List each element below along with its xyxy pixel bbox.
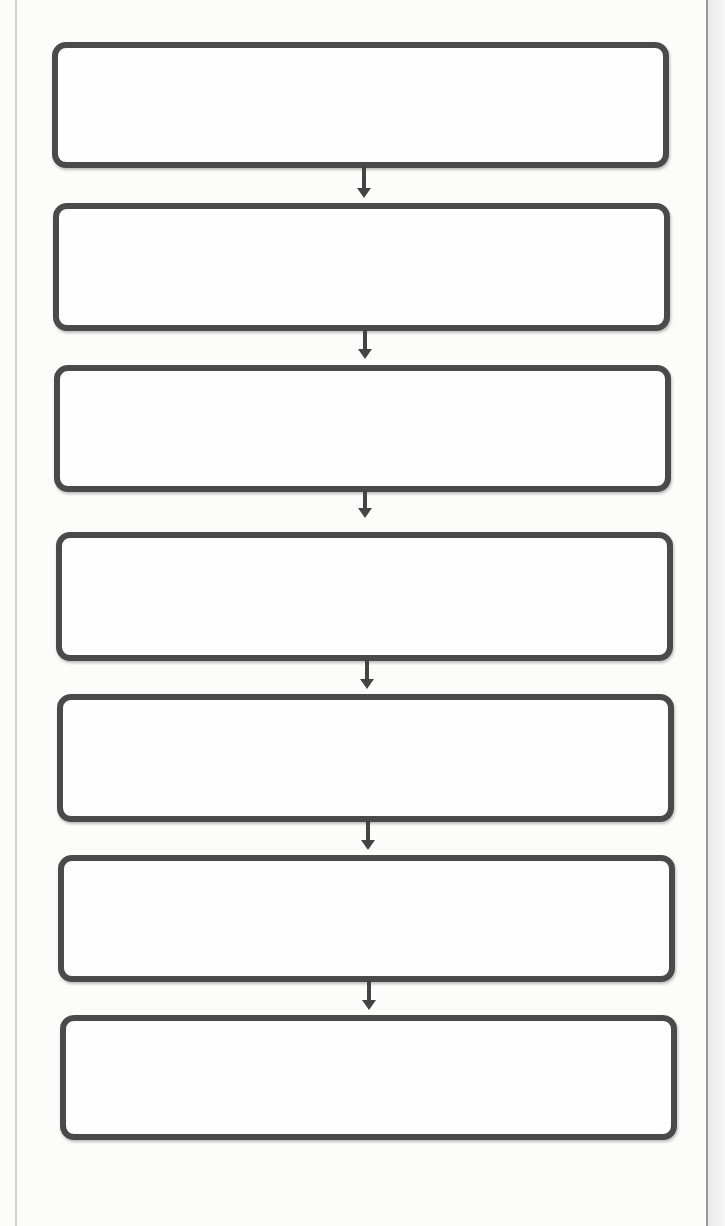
down-arrow-icon	[357, 166, 371, 200]
flow-box-7[interactable]	[60, 1015, 677, 1140]
down-arrow-icon	[360, 659, 374, 693]
flow-box-5[interactable]	[57, 694, 674, 822]
flow-box-1[interactable]	[52, 42, 669, 168]
down-arrow-icon	[362, 980, 376, 1014]
down-arrow-icon	[358, 490, 372, 526]
page-margin-line-left	[15, 0, 17, 1226]
flow-box-3[interactable]	[54, 365, 671, 492]
flow-box-6[interactable]	[58, 855, 675, 982]
down-arrow-icon	[361, 820, 375, 854]
flow-box-2[interactable]	[53, 203, 670, 331]
page-edge-shadow	[708, 0, 725, 1226]
page-margin-line-right	[706, 0, 708, 1226]
down-arrow-icon	[358, 329, 372, 363]
flow-box-4[interactable]	[56, 532, 673, 661]
